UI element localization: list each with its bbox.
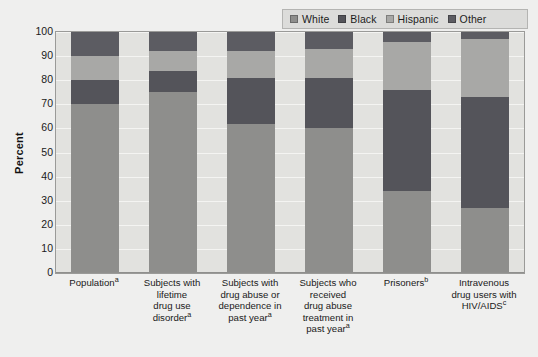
legend-item-label: Black: [350, 13, 376, 25]
plot-area: [55, 31, 525, 274]
x-axis-label-line: HIV/AIDSc: [445, 300, 523, 312]
y-axis-tick-label: 90: [13, 49, 53, 61]
stacked-bar[interactable]: [305, 32, 353, 273]
bar-group: [212, 32, 290, 273]
legend-item-label: Hispanic: [398, 13, 439, 25]
footnote-marker: c: [503, 298, 507, 307]
bar-segment-white[interactable]: [461, 208, 509, 273]
bar-group: [56, 32, 134, 273]
legend-item-white[interactable]: White: [290, 13, 329, 25]
footnote-marker: a: [268, 310, 272, 319]
y-axis-tick-label: 30: [13, 194, 53, 206]
x-axis-label-line: Subjects who: [289, 277, 367, 289]
bar-group: [368, 32, 446, 273]
legend-item-label: White: [302, 13, 329, 25]
footnote-marker: b: [424, 275, 428, 284]
legend-swatch-icon: [290, 15, 298, 23]
stacked-bar[interactable]: [149, 32, 197, 273]
legend-swatch-icon: [338, 15, 346, 23]
bar-group: [290, 32, 368, 273]
y-axis-tick-label: 0: [13, 266, 53, 278]
footnote-marker: a: [346, 321, 350, 330]
bar-group: [446, 32, 524, 273]
bar-segment-black[interactable]: [71, 80, 119, 104]
bar-segment-other[interactable]: [305, 32, 353, 49]
stacked-bar[interactable]: [71, 32, 119, 273]
bar-segment-white[interactable]: [305, 128, 353, 273]
x-axis-label-line: drug use: [133, 300, 211, 312]
x-axis-label-line: disordera: [133, 312, 211, 324]
legend-item-hispanic[interactable]: Hispanic: [386, 13, 439, 25]
x-axis-label-line: lifetime: [133, 289, 211, 301]
x-axis-category-label: Subjects withdrug abuse ordependence inp…: [211, 277, 289, 323]
y-axis: Percent 0102030405060708090100: [8, 31, 53, 274]
x-axis-label-line: drug abuse or: [211, 289, 289, 301]
bar-segment-white[interactable]: [383, 191, 431, 273]
legend-item-black[interactable]: Black: [338, 13, 376, 25]
x-axis-label-line: Populationa: [55, 277, 133, 289]
stacked-bar[interactable]: [227, 32, 275, 273]
bar-segment-white[interactable]: [227, 124, 275, 273]
x-axis-category-label: Prisonersb: [367, 277, 445, 289]
stacked-bar[interactable]: [461, 32, 509, 273]
y-axis-tick-label: 10: [13, 242, 53, 254]
legend-swatch-icon: [386, 15, 394, 23]
legend-item-other[interactable]: Other: [448, 13, 487, 25]
y-axis-tick-label: 80: [13, 73, 53, 85]
x-axis-label-line: Intravenous: [445, 277, 523, 289]
footnote-marker: a: [115, 275, 119, 284]
bar-segment-black[interactable]: [227, 78, 275, 124]
bar-segment-hispanic[interactable]: [305, 49, 353, 78]
x-axis-label-line: past yeara: [211, 312, 289, 324]
x-axis-label-line: treatment in: [289, 312, 367, 324]
y-axis-tick-label: 60: [13, 121, 53, 133]
bar-segment-black[interactable]: [461, 97, 509, 208]
x-axis-label-line: drug users with: [445, 289, 523, 301]
bar-segment-black[interactable]: [149, 71, 197, 93]
legend-item-label: Other: [460, 13, 487, 25]
y-axis-tick-label: 100: [13, 25, 53, 37]
y-axis-tick-label: 20: [13, 218, 53, 230]
bar-segment-black[interactable]: [383, 90, 431, 191]
bar-segment-other[interactable]: [461, 32, 509, 39]
x-axis-labels: PopulationaSubjects withlifetimedrug use…: [55, 277, 525, 355]
chart-legend: WhiteBlackHispanicOther: [282, 9, 528, 29]
y-axis-tick-label: 50: [13, 146, 53, 158]
y-axis-tick-label: 70: [13, 97, 53, 109]
bar-segment-other[interactable]: [149, 32, 197, 51]
bar-segment-hispanic[interactable]: [461, 39, 509, 97]
bar-segment-other[interactable]: [383, 32, 431, 42]
chart-root: WhiteBlackHispanicOther Percent 01020304…: [0, 0, 538, 357]
bar-segment-hispanic[interactable]: [71, 56, 119, 80]
x-axis-line: [56, 272, 524, 273]
bar-segment-hispanic[interactable]: [383, 42, 431, 90]
x-axis-category-label: Subjects whoreceiveddrug abusetreatment …: [289, 277, 367, 335]
y-axis-tick-label: 40: [13, 170, 53, 182]
x-axis-label-line: drug abuse: [289, 300, 367, 312]
x-axis-category-label: Subjects withlifetimedrug usedisordera: [133, 277, 211, 323]
x-axis-category-label: Populationa: [55, 277, 133, 289]
x-axis-label-line: dependence in: [211, 300, 289, 312]
x-axis-label-line: Subjects with: [211, 277, 289, 289]
stacked-bar[interactable]: [383, 32, 431, 273]
bar-group: [134, 32, 212, 273]
x-axis-label-line: past yeara: [289, 323, 367, 335]
x-axis-label-line: Subjects with: [133, 277, 211, 289]
x-axis-label-line: received: [289, 289, 367, 301]
bar-segment-hispanic[interactable]: [149, 51, 197, 70]
bar-segment-black[interactable]: [305, 78, 353, 129]
x-axis-label-line: Prisonersb: [367, 277, 445, 289]
bar-segment-white[interactable]: [71, 104, 119, 273]
bar-segment-other[interactable]: [71, 32, 119, 56]
bar-segment-hispanic[interactable]: [227, 51, 275, 78]
bars-layer: [56, 32, 524, 273]
x-axis-category-label: Intravenousdrug users withHIV/AIDSc: [445, 277, 523, 312]
footnote-marker: a: [187, 310, 191, 319]
bar-segment-white[interactable]: [149, 92, 197, 273]
bar-segment-other[interactable]: [227, 32, 275, 51]
legend-swatch-icon: [448, 15, 456, 23]
